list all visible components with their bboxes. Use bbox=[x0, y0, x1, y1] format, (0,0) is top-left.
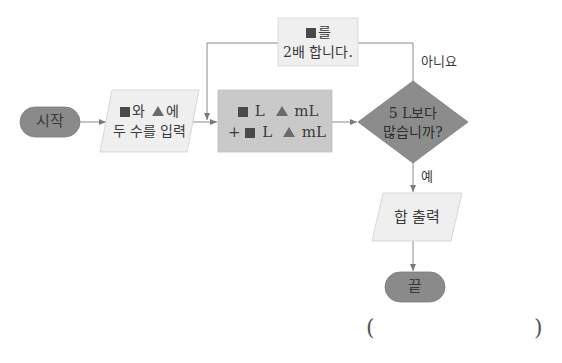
output-label: 합 출력 bbox=[372, 208, 462, 226]
square-symbol-icon bbox=[306, 28, 316, 38]
compute-row-1: L mL bbox=[228, 101, 332, 122]
triangle-symbol-icon bbox=[276, 106, 288, 116]
end-label: 끝 bbox=[385, 277, 445, 295]
decision-text: 5 L보다 많습니까? bbox=[368, 104, 458, 142]
answer-blank-area[interactable] bbox=[380, 318, 530, 344]
decision-line-2: 많습니까? bbox=[368, 123, 458, 142]
input-line-1: 와 에 bbox=[100, 101, 199, 121]
triangle-symbol-icon bbox=[283, 127, 295, 137]
square-symbol-icon bbox=[245, 128, 255, 138]
compute-text: L mL + L mL bbox=[228, 101, 332, 143]
triangle-symbol-icon bbox=[152, 106, 164, 116]
input-line-2: 두 수를 입력 bbox=[100, 121, 199, 141]
branch-no-label: 아니요 bbox=[421, 53, 457, 71]
answer-close-paren: ) bbox=[534, 315, 543, 340]
double-square-line-1: 를 bbox=[278, 22, 358, 42]
answer-open-paren: ( bbox=[366, 315, 375, 340]
double-square-line-2: 2배 합니다. bbox=[278, 42, 358, 62]
square-symbol-icon bbox=[238, 107, 248, 117]
input-text: 와 에 두 수를 입력 bbox=[100, 101, 199, 141]
compute-row-2: + L mL bbox=[228, 122, 332, 143]
start-label: 시작 bbox=[20, 112, 80, 130]
square-symbol-icon bbox=[120, 107, 130, 117]
decision-line-1: 5 L보다 bbox=[368, 104, 458, 123]
branch-yes-label: 예 bbox=[421, 168, 433, 186]
double-square-text: 를 2배 합니다. bbox=[278, 22, 358, 62]
